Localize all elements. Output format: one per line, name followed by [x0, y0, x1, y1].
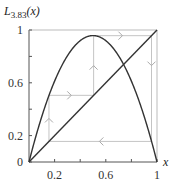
y-axis-title: L3.83(x): [3, 4, 40, 20]
x-axis-title: x: [162, 155, 169, 169]
x-tick-label: 1: [154, 168, 160, 182]
x-tick-label: 0.2: [47, 168, 62, 182]
y-tick-label: 0: [17, 155, 23, 169]
y-tick-label: 1: [17, 23, 23, 37]
y-tick-label: 0.2: [8, 129, 23, 143]
x-tick-label: 0.6: [98, 168, 113, 182]
tick-labels: 0.20.6100.20.61: [8, 23, 160, 182]
logistic-map-chart: 0.20.6100.20.61 L3.83(x) x: [0, 0, 177, 185]
y-tick-label: 0.6: [8, 76, 23, 90]
